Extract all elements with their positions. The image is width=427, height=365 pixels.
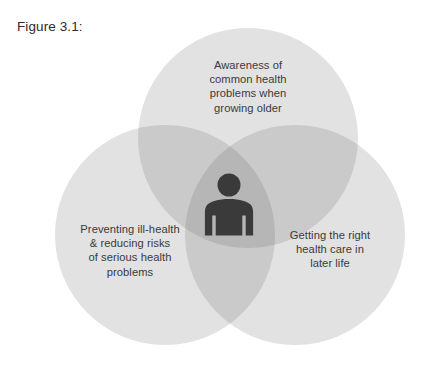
venn-label-top: Awareness of common health problems when… <box>178 58 318 115</box>
venn-diagram: Awareness of common health problems when… <box>0 0 427 365</box>
venn-label-right: Getting the right health care in later l… <box>267 228 393 271</box>
venn-label-left: Preventing ill-health & reducing risks o… <box>57 222 203 279</box>
venn-svg <box>0 0 427 365</box>
